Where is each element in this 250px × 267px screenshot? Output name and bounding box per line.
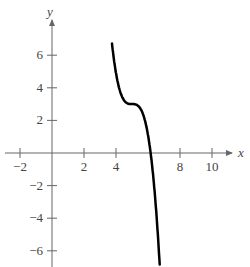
y-tick-label: 4 <box>37 80 44 95</box>
y-tick-label: 6 <box>37 47 44 62</box>
y-tick-label: −2 <box>29 178 43 193</box>
function-curve <box>112 44 160 265</box>
x-tick-label: −2 <box>13 159 27 174</box>
y-tick-label: −6 <box>29 243 43 258</box>
y-axis-label: y <box>45 4 53 19</box>
x-tick-label: 2 <box>81 159 88 174</box>
chart: −224810 642−2−4−6 x y <box>0 0 250 267</box>
x-tick-label: 8 <box>177 159 184 174</box>
x-tick-label: 4 <box>113 159 120 174</box>
x-ticks: −224810 <box>13 148 218 174</box>
y-tick-label: 2 <box>37 112 44 127</box>
x-tick-label: 10 <box>206 159 219 174</box>
y-tick-label: −4 <box>29 210 43 225</box>
x-axis-label: x <box>237 145 244 160</box>
